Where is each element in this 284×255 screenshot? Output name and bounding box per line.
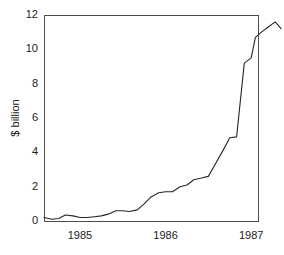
x-tick-label: 1986 (153, 229, 177, 241)
x-tick-label: 1985 (68, 229, 92, 241)
y-tick-label: 0 (32, 214, 38, 226)
chart-canvas: 024681012 198519861987 $ billion (0, 0, 284, 255)
x-tick-label: 1987 (239, 229, 263, 241)
y-tick-label: 12 (26, 8, 38, 20)
y-axis-title-group: $ billion (9, 99, 21, 136)
y-tick-label: 4 (32, 145, 38, 157)
y-tick-label: 2 (32, 180, 38, 192)
y-tick-label: 10 (26, 42, 38, 54)
y-tick-label: 6 (32, 111, 38, 123)
line-chart: 024681012 198519861987 $ billion (0, 0, 284, 255)
chart-background (0, 0, 284, 255)
y-tick-label: 8 (32, 77, 38, 89)
y-axis-title: $ billion (9, 99, 21, 136)
